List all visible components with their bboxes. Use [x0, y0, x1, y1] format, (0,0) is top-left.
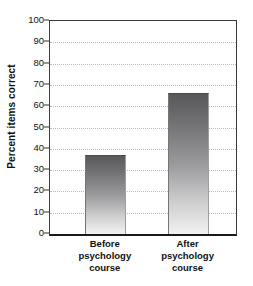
- x-axis-tick-labels: BeforepsychologycourseAfterpsychologycou…: [49, 238, 237, 286]
- bars-layer: [50, 21, 236, 234]
- y-axis-tick-label: 60: [33, 100, 44, 110]
- y-axis-tick-label: 50: [33, 122, 44, 132]
- y-axis-tick-label: 100: [28, 15, 44, 25]
- bar-chart: Percent items correct 100908070605040302…: [0, 0, 253, 286]
- x-axis-tick-label-line: psychology: [142, 250, 234, 262]
- y-axis-tick-label: 70: [33, 79, 44, 89]
- y-axis-tick-label: 90: [33, 37, 44, 47]
- x-axis-tick-label-line: Before: [59, 238, 151, 250]
- x-axis-tick-label-line: After: [142, 238, 234, 250]
- y-axis-tick-label: 10: [33, 207, 44, 217]
- y-axis-tick-label: 20: [33, 186, 44, 196]
- x-axis-tick-label: Beforepsychologycourse: [59, 238, 151, 275]
- y-axis-tick-label: 30: [33, 164, 44, 174]
- x-axis-tick-label-line: course: [59, 262, 151, 274]
- x-axis-tick-label-line: course: [142, 262, 234, 274]
- x-axis-tick-label-line: psychology: [59, 250, 151, 262]
- y-axis-title-label: Percent items correct: [6, 64, 17, 168]
- plot-area: [49, 20, 237, 236]
- x-axis-tick-label: Afterpsychologycourse: [142, 238, 234, 275]
- bar: [85, 155, 126, 234]
- bar: [168, 93, 209, 234]
- y-axis-tick-label: 80: [33, 58, 44, 68]
- y-axis-tick-label: 40: [33, 143, 44, 153]
- y-axis-title: Percent items correct: [0, 0, 22, 233]
